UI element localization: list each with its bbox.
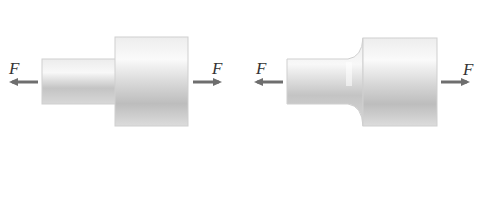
large-cylinder bbox=[115, 37, 188, 126]
small-cylinder bbox=[42, 59, 116, 104]
force-label-left-1: F bbox=[9, 60, 19, 77]
force-label-right-2: F bbox=[463, 61, 473, 78]
force-label-right-1: F bbox=[212, 60, 222, 77]
fillet-highlight bbox=[346, 62, 352, 86]
stepped-shaft-diagram bbox=[0, 0, 491, 199]
figure-filleted-shoulder bbox=[257, 38, 467, 126]
figure-sharp-shoulder bbox=[12, 37, 219, 126]
force-label-left-2: F bbox=[256, 60, 266, 77]
large-cylinder bbox=[363, 38, 437, 126]
